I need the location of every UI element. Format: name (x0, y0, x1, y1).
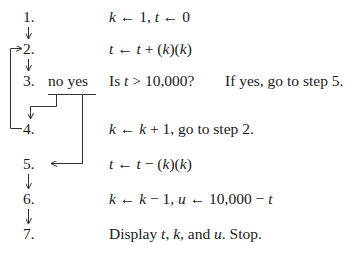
arrow-loop-4-to-2 (11, 49, 23, 129)
flow-connectors (0, 0, 356, 258)
arrow-no-to-4 (31, 95, 57, 119)
